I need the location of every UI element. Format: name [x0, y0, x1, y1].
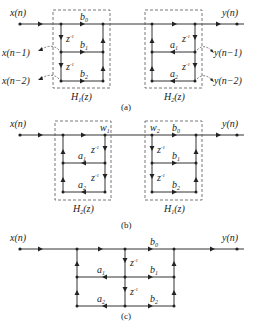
- panel-c: x(n) y(n) b0 b1 b2 a1 a2 z-1 z-1 (c): [9, 232, 244, 321]
- svg-text:b2: b2: [80, 68, 88, 80]
- svg-text:b0: b0: [80, 11, 88, 23]
- arrow-icon: [59, 63, 64, 68]
- input-label: x(n): [9, 7, 27, 19]
- svg-text:w1: w1: [100, 122, 110, 134]
- svg-text:a2: a2: [170, 68, 178, 80]
- svg-text:a1: a1: [97, 264, 105, 276]
- arrow-icon: [38, 22, 43, 27]
- signal-flow-diagram: x(n) y(n) b0 b1 b2 z-1 z-1 H1(z) x(n−1) …: [0, 0, 256, 325]
- svg-text:a1: a1: [78, 150, 86, 162]
- h1-label: H1(z): [70, 91, 92, 103]
- svg-text:z-1: z-1: [65, 33, 74, 44]
- svg-text:b1: b1: [80, 39, 88, 51]
- svg-text:a2: a2: [97, 293, 105, 305]
- input-node: [18, 22, 21, 25]
- panel-a: x(n) y(n) b0 b1 b2 z-1 z-1 H1(z) x(n−1) …: [1, 7, 244, 112]
- tap-label: x(n−2): [1, 75, 31, 87]
- input-label: x(n): [9, 232, 27, 244]
- svg-text:a1: a1: [170, 39, 178, 51]
- h1-label: H1(z): [163, 203, 185, 215]
- arrow-icon: [101, 66, 106, 71]
- svg-text:w2: w2: [150, 122, 160, 134]
- svg-text:b0: b0: [172, 122, 180, 134]
- output-node: [235, 22, 238, 25]
- input-label: x(n): [9, 118, 27, 130]
- svg-text:b0: b0: [150, 236, 158, 248]
- svg-text:b1: b1: [172, 150, 180, 162]
- svg-text:b2: b2: [150, 293, 158, 305]
- svg-text:z-1: z-1: [156, 144, 165, 155]
- panel-b: x(n) y(n) w1 a1 a2 z-1 z-1 H2(z): [9, 118, 244, 230]
- h2-label: H2(z): [163, 91, 185, 103]
- svg-text:z-1: z-1: [129, 286, 138, 297]
- svg-text:z-1: z-1: [90, 172, 99, 183]
- svg-text:a2: a2: [78, 179, 86, 191]
- tap-label: y(n−1): [213, 47, 243, 59]
- svg-text:z-1: z-1: [65, 61, 74, 72]
- output-label: y(n): [221, 7, 239, 19]
- arrow-icon: [101, 38, 106, 43]
- svg-text:z-1: z-1: [181, 33, 190, 44]
- svg-text:z-1: z-1: [129, 257, 138, 268]
- caption-b: (b): [121, 220, 132, 230]
- arrow-icon: [59, 35, 64, 40]
- tap-label: x(n−1): [1, 47, 31, 59]
- caption-c: (c): [121, 311, 131, 321]
- svg-text:z-1: z-1: [90, 144, 99, 155]
- svg-text:b1: b1: [150, 264, 158, 276]
- caption-a: (a): [121, 102, 131, 112]
- svg-text:z-1: z-1: [181, 61, 190, 72]
- output-label: y(n): [221, 232, 239, 244]
- h2-label: H2(z): [72, 203, 94, 215]
- svg-text:z-1: z-1: [156, 172, 165, 183]
- arrow-icon: [216, 22, 221, 27]
- output-label: y(n): [221, 118, 239, 130]
- tap-label: y(n−2): [213, 75, 243, 87]
- svg-text:b2: b2: [172, 179, 180, 191]
